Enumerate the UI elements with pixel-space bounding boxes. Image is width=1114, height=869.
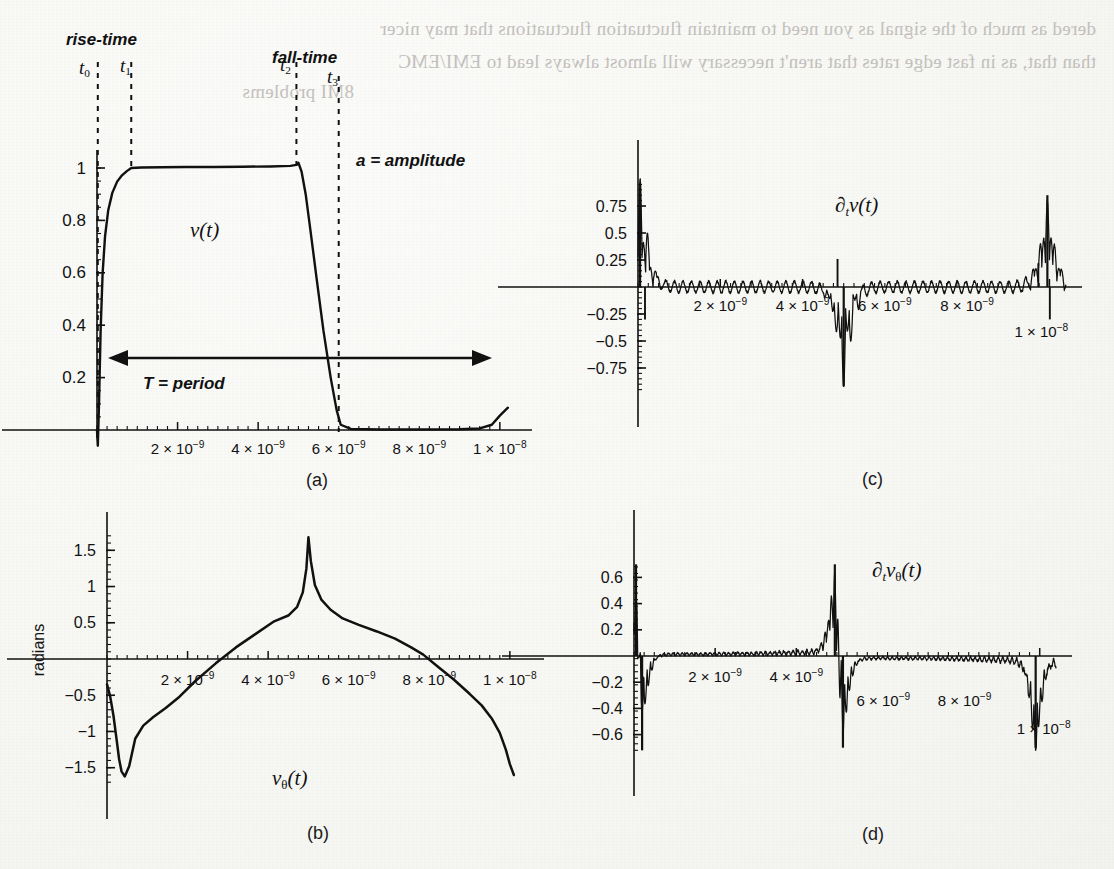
x-tick-label-3: 8 × 10−9 xyxy=(392,439,446,457)
x-tick-label-1: 4 × 10−9 xyxy=(231,439,285,457)
t3-subscript: 3 xyxy=(332,76,338,88)
y-tick-label-0: 0.75 xyxy=(596,198,627,215)
y-tick-label-0: 1.5 xyxy=(74,542,96,559)
t2-subscript: 2 xyxy=(285,64,291,76)
panel-a-content: 2 × 10−94 × 10−96 × 10−98 × 10−91 × 10−8… xyxy=(2,62,532,457)
x-tick-label-1: 4 × 10−9 xyxy=(769,667,823,685)
y-tick-label-3: −0.5 xyxy=(64,687,96,704)
panel-d-caption: (d) xyxy=(862,824,884,845)
y-tick-label-3: −0.25 xyxy=(587,306,628,323)
panel-b-y-axis-title: radians xyxy=(30,605,48,695)
y-tick-label-5: −0.6 xyxy=(591,726,623,743)
y-tick-label-2: 0.25 xyxy=(596,252,627,269)
y-tick-label-4: −0.5 xyxy=(595,333,627,350)
x-tick-label-4: 1 × 10−8 xyxy=(1017,719,1071,737)
t0-subscript: 0 xyxy=(84,67,90,79)
panel-d-dvtheta: 2 × 10−94 × 10−96 × 10−98 × 10−91 × 10−8… xyxy=(560,500,1114,830)
amplitude-label: a = amplitude xyxy=(356,151,465,171)
y-tick-label-2: 0.2 xyxy=(601,621,623,638)
panel-d-derivative-curve xyxy=(634,573,1056,750)
y-tick-label-2: 0.5 xyxy=(74,614,96,631)
x-tick-label-3: 8 × 10−9 xyxy=(940,296,994,314)
panel-c-dv: 2 × 10−94 × 10−96 × 10−98 × 10−91 × 10−8… xyxy=(560,130,1114,470)
period-arrow-head-left xyxy=(108,350,128,366)
y-tick-label-3: −0.2 xyxy=(591,674,623,691)
x-tick-label-0: 2 × 10−9 xyxy=(693,296,747,314)
y-tick-label-1: 0.4 xyxy=(62,316,86,335)
y-tick-label-5: −0.75 xyxy=(587,360,628,377)
x-tick-label-2: 6 × 10−9 xyxy=(312,439,366,457)
panel-a-caption: (a) xyxy=(306,470,328,491)
x-tick-label-3: 8 × 10−9 xyxy=(402,670,456,688)
panel-d-plot: 2 × 10−94 × 10−96 × 10−98 × 10−91 × 10−8… xyxy=(560,500,1114,830)
y-tick-label-4: −1 xyxy=(78,723,96,740)
x-tick-label-2: 6 × 10−9 xyxy=(857,691,911,709)
y-tick-label-1: 0.4 xyxy=(601,595,623,612)
t1-subscript: 1 xyxy=(125,65,131,77)
panel-c-content: 2 × 10−94 × 10−96 × 10−98 × 10−91 × 10−8… xyxy=(498,140,1082,427)
x-tick-label-3: 8 × 10−9 xyxy=(938,691,992,709)
x-tick-label-0: 2 × 10−9 xyxy=(688,667,742,685)
x-tick-label-0: 2 × 10−9 xyxy=(151,439,205,457)
panel-a-waveform-curve xyxy=(97,163,508,446)
panel-c-series-label: ∂tv(t) xyxy=(835,193,878,220)
time-marker-t2: t2 xyxy=(280,54,291,76)
x-tick-label-4: 1 × 10−8 xyxy=(1015,322,1069,340)
panel-c-plot: 2 × 10−94 × 10−96 × 10−98 × 10−91 × 10−8… xyxy=(560,130,1114,470)
time-marker-t0: t0 xyxy=(79,57,90,79)
y-tick-label-4: 1 xyxy=(77,159,86,178)
y-tick-label-0: 0.2 xyxy=(62,368,86,387)
time-marker-t3: t3 xyxy=(327,66,338,88)
panel-b-caption: (b) xyxy=(307,823,329,844)
y-tick-label-1: 0.5 xyxy=(605,225,627,242)
panel-a-series-label: v(t) xyxy=(190,218,219,243)
y-tick-label-1: 1 xyxy=(87,578,96,595)
panel-b-series-label: vθ(t) xyxy=(272,766,307,793)
period-arrow-head-right xyxy=(472,350,492,366)
x-tick-label-4: 1 × 10−8 xyxy=(483,670,537,688)
y-tick-label-4: −0.4 xyxy=(591,700,623,717)
x-tick-label-2: 6 × 10−9 xyxy=(858,296,912,314)
x-tick-label-4: 1 × 10−8 xyxy=(473,439,527,457)
period-label: T = period xyxy=(143,374,225,394)
rise-time-label: rise-time xyxy=(66,30,137,50)
x-tick-label-1: 4 × 10−9 xyxy=(241,670,295,688)
y-tick-label-2: 0.6 xyxy=(62,263,86,282)
y-tick-label-3: 0.8 xyxy=(62,211,86,230)
y-tick-label-0: 0.6 xyxy=(601,569,623,586)
panel-d-content: 2 × 10−94 × 10−96 × 10−98 × 10−91 × 10−8… xyxy=(502,510,1072,796)
x-tick-label-2: 6 × 10−9 xyxy=(322,670,376,688)
time-marker-t1: t1 xyxy=(120,55,131,77)
panel-c-caption: (c) xyxy=(862,469,883,490)
x-tick-label-1: 4 × 10−9 xyxy=(776,296,830,314)
panel-d-series-label: ∂tvθ(t) xyxy=(872,558,921,585)
y-tick-label-5: −1.5 xyxy=(64,759,96,776)
panel-b-phase-curve xyxy=(107,537,514,776)
